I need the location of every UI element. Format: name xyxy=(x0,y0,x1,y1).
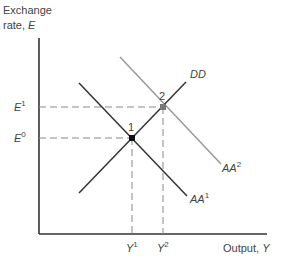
exchange-rate-output-diagram: Exchange rate, E E1 E0 Y1 Y2 Output, Y D… xyxy=(0,0,281,267)
y-axis-label-line1: Exchange xyxy=(3,4,52,16)
y1-tick-label: Y1 xyxy=(126,240,138,254)
dd-label: DD xyxy=(190,68,206,80)
y-axis-label-line2: rate, E xyxy=(3,19,36,31)
equilibrium-point-2 xyxy=(160,104,166,110)
equilibrium-point-1 xyxy=(129,135,135,141)
e0-tick-label: E0 xyxy=(14,130,26,144)
y2-tick-label: Y2 xyxy=(157,240,169,254)
aa2-label: AA2 xyxy=(221,160,242,174)
x-axis-label: Output, Y xyxy=(223,242,270,254)
point-2-label: 2 xyxy=(159,90,165,102)
aa1-label: AA1 xyxy=(189,191,210,205)
e1-tick-label: E1 xyxy=(14,99,26,113)
point-1-label: 1 xyxy=(128,121,134,133)
